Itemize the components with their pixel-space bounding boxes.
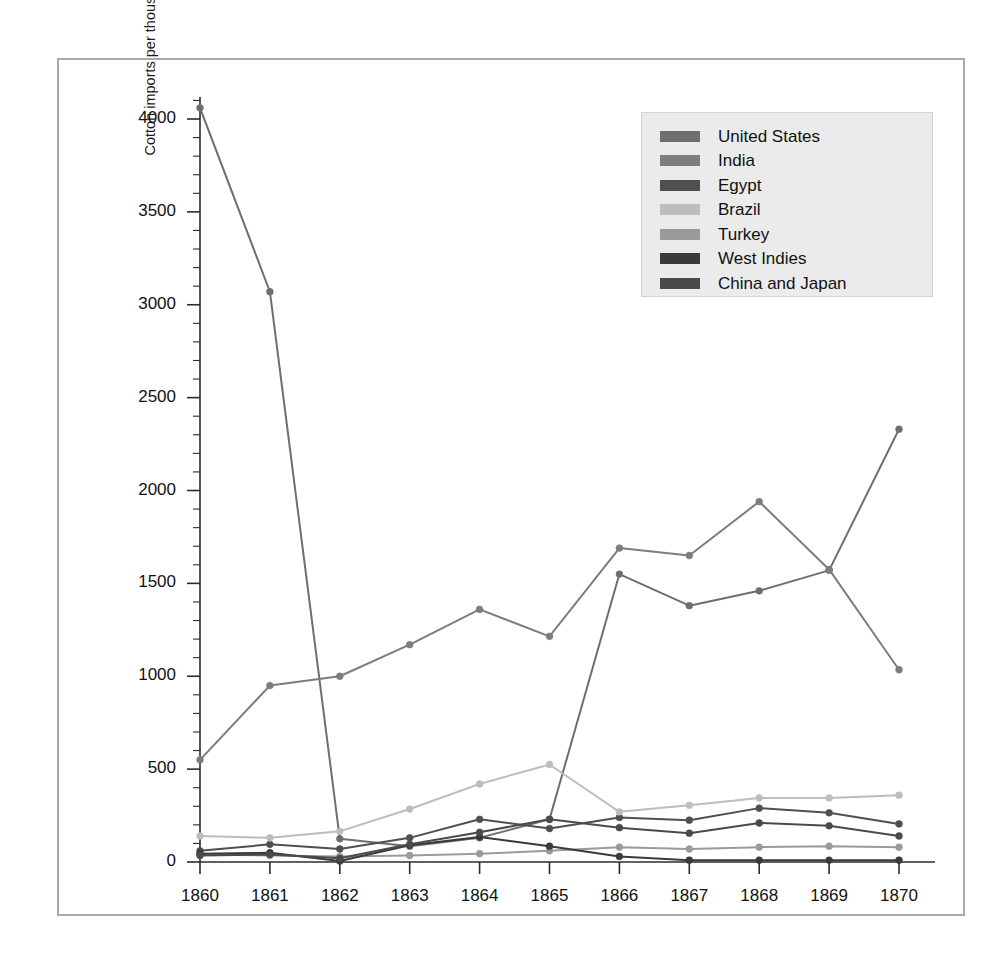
data-point-china-and-japan [546,816,553,823]
data-point-india [896,666,903,673]
y-axis-tick-label: 4000 [106,108,176,128]
data-point-turkey [616,844,623,851]
data-point-turkey [406,852,413,859]
series-line-india [200,502,899,760]
data-point-egypt [826,809,833,816]
legend-label: India [718,152,755,169]
legend-item: India [660,149,932,174]
data-point-brazil [476,781,483,788]
x-axis-tick-label: 1865 [515,886,585,906]
data-point-turkey [476,850,483,857]
x-axis-tick-label: 1862 [305,886,375,906]
data-point-united-states [896,426,903,433]
data-point-brazil [197,833,204,840]
data-point-china-and-japan [616,824,623,831]
data-point-china-and-japan [336,855,343,862]
data-point-egypt [476,816,483,823]
y-axis-tick-label: 2000 [106,480,176,500]
data-point-turkey [756,844,763,851]
x-axis-tick-label: 1868 [724,886,794,906]
data-point-india [616,545,623,552]
data-point-united-states [336,835,343,842]
y-axis-tick-label: 2500 [106,387,176,407]
data-point-egypt [896,821,903,828]
data-point-egypt [756,805,763,812]
data-point-brazil [896,792,903,799]
data-point-india [406,641,413,648]
legend-label: China and Japan [718,275,847,292]
data-point-egypt [406,834,413,841]
legend-label: Egypt [718,177,761,194]
data-point-egypt [267,841,274,848]
data-point-west-indies [826,857,833,864]
legend-label: Brazil [718,201,761,218]
data-point-india [686,552,693,559]
data-point-west-indies [896,857,903,864]
y-axis-tick-label: 1000 [106,665,176,685]
data-point-india [826,566,833,573]
x-axis-tick-label: 1870 [864,886,934,906]
data-point-brazil [336,828,343,835]
legend-swatch-icon [660,155,700,166]
x-axis-tick-label: 1861 [235,886,305,906]
data-point-india [476,606,483,613]
data-point-brazil [406,806,413,813]
data-point-west-indies [616,853,623,860]
data-point-india [197,756,204,763]
data-point-brazil [546,761,553,768]
y-axis-tick-label: 3000 [106,294,176,314]
data-point-egypt [546,825,553,832]
data-point-india [756,498,763,505]
data-point-west-indies [756,857,763,864]
x-axis-tick-label: 1864 [445,886,515,906]
data-point-united-states [197,104,204,111]
legend-swatch-icon [660,253,700,264]
data-point-india [336,673,343,680]
data-point-west-indies [546,843,553,850]
data-point-brazil [756,795,763,802]
data-point-india [546,633,553,640]
data-point-china-and-japan [896,833,903,840]
y-axis-tick-label: 0 [106,851,176,871]
y-axis-tick-label: 3500 [106,201,176,221]
chart-legend: United StatesIndiaEgyptBrazilTurkeyWest … [641,112,933,297]
chart-page: Cotton imports per thousand 400-pound ba… [0,0,991,973]
x-axis-tick-label: 1866 [584,886,654,906]
legend-item: Egypt [660,173,932,198]
data-point-brazil [686,802,693,809]
data-point-egypt [686,817,693,824]
legend-swatch-icon [660,131,700,142]
x-axis-tick-label: 1867 [654,886,724,906]
data-point-brazil [826,795,833,802]
data-point-west-indies [686,857,693,864]
legend-swatch-icon [660,229,700,240]
y-axis-tick-label: 1500 [106,572,176,592]
y-axis-tick-label: 500 [106,758,176,778]
legend-item: Brazil [660,198,932,223]
x-axis-tick-label: 1869 [794,886,864,906]
legend-item: China and Japan [660,271,932,296]
data-point-brazil [616,808,623,815]
data-point-china-and-japan [267,851,274,858]
data-point-egypt [336,846,343,853]
legend-item: United States [660,124,932,149]
data-point-united-states [756,587,763,594]
x-axis-tick-label: 1860 [165,886,235,906]
data-point-china-and-japan [756,820,763,827]
data-point-united-states [616,571,623,578]
data-point-turkey [826,843,833,850]
legend-swatch-icon [660,180,700,191]
legend-label: West Indies [718,250,807,267]
data-point-turkey [896,844,903,851]
data-point-china-and-japan [826,822,833,829]
legend-swatch-icon [660,278,700,289]
data-point-turkey [686,846,693,853]
legend-swatch-icon [660,204,700,215]
data-point-china-and-japan [406,841,413,848]
data-point-india [267,682,274,689]
data-point-brazil [267,834,274,841]
legend-item: West Indies [660,247,932,272]
data-point-china-and-japan [197,852,204,859]
legend-item: Turkey [660,222,932,247]
legend-label: Turkey [718,226,769,243]
